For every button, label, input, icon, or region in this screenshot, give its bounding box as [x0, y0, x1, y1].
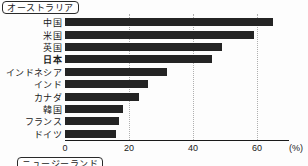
category-label: 日本 — [0, 53, 62, 66]
x-tick-label: 0 — [62, 143, 67, 153]
chart-row: インドネシア — [0, 66, 308, 78]
chart-row: 英国 — [0, 41, 308, 53]
x-axis — [65, 140, 289, 141]
survey-bar-chart-panel: オーストラリア 中国米国英国日本インドネシアインドカナダ韓国フランスドイツ020… — [0, 0, 308, 166]
chart-row: 韓国 — [0, 103, 308, 115]
chart-row: カナダ — [0, 90, 308, 102]
bar — [65, 117, 119, 125]
category-label: 米国 — [0, 28, 62, 41]
x-tick-label: 20 — [124, 143, 134, 153]
category-label: カナダ — [0, 90, 62, 103]
x-tick-label: 40 — [188, 143, 198, 153]
bar — [65, 93, 139, 101]
bar — [65, 130, 116, 138]
bar — [65, 31, 254, 39]
chart-row: 日本 — [0, 53, 308, 65]
chart-row: インド — [0, 78, 308, 90]
bar — [65, 105, 123, 113]
category-label: インドネシア — [0, 65, 62, 78]
bar — [65, 80, 148, 88]
chart-row: 中国 — [0, 16, 308, 28]
category-label: インド — [0, 78, 62, 91]
category-label: フランス — [0, 115, 62, 128]
chart-row: フランス — [0, 115, 308, 127]
bar — [65, 43, 222, 51]
x-axis-unit-label: (%) — [289, 143, 303, 153]
panel-label-australia: オーストラリア — [2, 1, 79, 14]
x-tick-label: 60 — [252, 143, 262, 153]
bar — [65, 18, 273, 26]
category-label: 英国 — [0, 40, 62, 53]
bar — [65, 55, 212, 63]
category-label: ドイツ — [0, 127, 62, 140]
chart-row: 米国 — [0, 28, 308, 40]
panel-label-new-zealand: ニュージーランド — [17, 157, 103, 166]
chart-row: ドイツ — [0, 128, 308, 140]
category-label: 中国 — [0, 16, 62, 29]
bar — [65, 68, 167, 76]
category-label: 韓国 — [0, 102, 62, 115]
